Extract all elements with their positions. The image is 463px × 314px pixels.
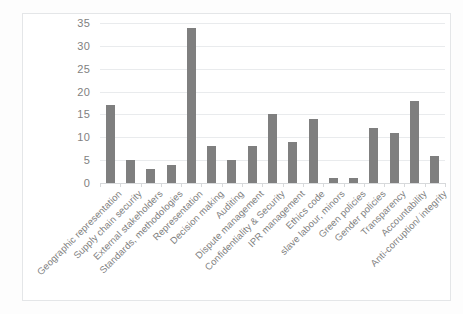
plot-area (100, 23, 445, 183)
bar (167, 165, 176, 183)
x-tick-mark (283, 183, 284, 187)
x-tick-mark (262, 183, 263, 187)
bar-chart-figure: 05101520253035 Geographic representation… (0, 0, 463, 314)
x-tick-mark (181, 183, 182, 187)
bar (248, 146, 257, 183)
bar (410, 101, 419, 183)
y-tick-label-5: 5 (84, 154, 90, 166)
bar (227, 160, 236, 183)
x-tick-mark (141, 183, 142, 187)
x-tick-mark (323, 183, 324, 187)
x-tick-mark (384, 183, 385, 187)
bar (126, 160, 135, 183)
bar (369, 128, 378, 183)
x-tick-mark (404, 183, 405, 187)
bar (430, 156, 439, 183)
x-tick-mark (222, 183, 223, 187)
x-tick-mark (120, 183, 121, 187)
y-tick-label-0: 0 (84, 177, 90, 189)
bar (268, 114, 277, 183)
x-tick-mark (242, 183, 243, 187)
x-tick-mark (100, 183, 101, 187)
bar (309, 119, 318, 183)
bars-group (100, 23, 445, 183)
bar (207, 146, 216, 183)
x-axis-category-labels: Geographic representationSupply chain se… (100, 188, 445, 298)
x-tick-mark (445, 183, 446, 187)
y-tick-label-20: 20 (77, 86, 90, 98)
x-tick-mark (425, 183, 426, 187)
x-tick-mark (303, 183, 304, 187)
x-tick-mark (364, 183, 365, 187)
y-tick-label-35: 35 (77, 17, 90, 29)
bar (288, 142, 297, 183)
x-tick-mark (161, 183, 162, 187)
y-axis-tick-labels: 05101520253035 (22, 23, 96, 183)
y-tick-label-30: 30 (77, 40, 90, 52)
x-tick-mark (344, 183, 345, 187)
bar (390, 133, 399, 183)
bar (106, 105, 115, 183)
y-tick-label-15: 15 (77, 108, 90, 120)
bar (187, 28, 196, 183)
y-tick-label-10: 10 (77, 131, 90, 143)
y-tick-label-25: 25 (77, 63, 90, 75)
x-tick-mark (201, 183, 202, 187)
bar (146, 169, 155, 183)
